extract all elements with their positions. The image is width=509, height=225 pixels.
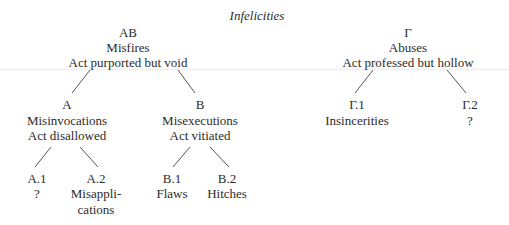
edge-b-to-b2: [210, 147, 229, 167]
node-a2-name-line1: Misappli-: [71, 186, 122, 201]
node-a-name: Misinvocations: [27, 113, 107, 128]
node-gamma-description: Act professed but hollow: [342, 55, 473, 70]
node-a-code: A: [62, 97, 71, 112]
node-b1-name: Flaws: [156, 186, 187, 201]
node-gamma-code: Γ: [404, 25, 412, 40]
edge-ab-to-b: [178, 70, 195, 93]
node-gamma2-code: Γ.2: [462, 97, 478, 112]
edge-ab-to-a: [72, 70, 90, 93]
edge-gamma-to-gamma1: [355, 70, 373, 93]
edge-b-to-b1: [173, 147, 190, 167]
infelicities-tree-diagram: Infelicities AB Misfires Act purported b…: [0, 0, 509, 225]
node-ab-name: Misfires: [106, 40, 149, 55]
node-a1-code: A.1: [27, 171, 46, 186]
node-a2-code: A.2: [86, 171, 105, 186]
node-gamma1-code: Γ.1: [349, 97, 365, 112]
diagram-title: Infelicities: [230, 8, 285, 23]
node-a1-name: ?: [34, 186, 40, 201]
node-a2-name-line2: cations: [78, 202, 115, 217]
node-b-description: Act vitiated: [169, 128, 230, 143]
edge-gamma-to-gamma2: [447, 70, 466, 93]
node-b2-code: B.2: [218, 171, 236, 186]
node-b-code: B: [196, 97, 205, 112]
node-b-name: Misexecutions: [162, 113, 238, 128]
node-a-description: Act disallowed: [28, 128, 106, 143]
node-b1-code: B.1: [163, 171, 181, 186]
edge-a-to-a2: [80, 147, 98, 167]
node-gamma2-name: ?: [467, 113, 473, 128]
node-ab-code: AB: [119, 25, 137, 40]
node-gamma1-name: Insincerities: [325, 113, 389, 128]
node-b2-name: Hitches: [207, 186, 247, 201]
edge-a-to-a1: [35, 147, 51, 167]
node-gamma-name: Abuses: [389, 40, 427, 55]
node-ab-description: Act purported but void: [69, 55, 188, 70]
